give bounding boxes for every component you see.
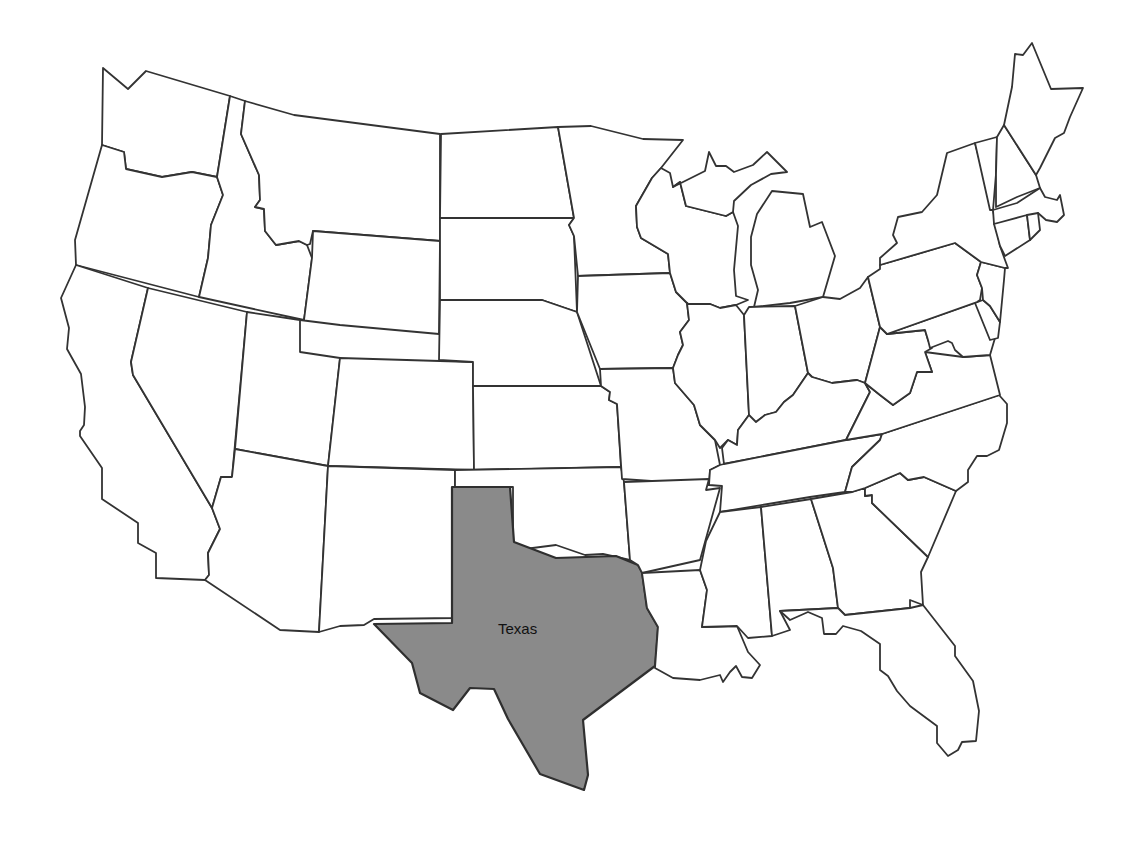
state-new-mexico[interactable] — [319, 466, 455, 632]
state-kansas[interactable] — [473, 386, 621, 470]
state-north-dakota[interactable] — [440, 127, 574, 218]
state-colorado[interactable] — [328, 358, 474, 470]
state-south-dakota[interactable] — [440, 218, 577, 312]
state-iowa[interactable] — [577, 273, 689, 369]
state-rhode-island[interactable] — [1027, 213, 1040, 240]
state-label-texas: Texas — [498, 620, 537, 637]
state-utah[interactable] — [235, 312, 340, 466]
us-map: Texas — [0, 0, 1137, 845]
state-arizona[interactable] — [205, 449, 328, 632]
state-michigan-lower[interactable] — [751, 191, 835, 307]
state-wyoming[interactable] — [300, 231, 440, 334]
state-montana[interactable] — [241, 101, 440, 245]
state-mississippi[interactable] — [700, 507, 772, 638]
state-florida[interactable] — [780, 605, 979, 756]
